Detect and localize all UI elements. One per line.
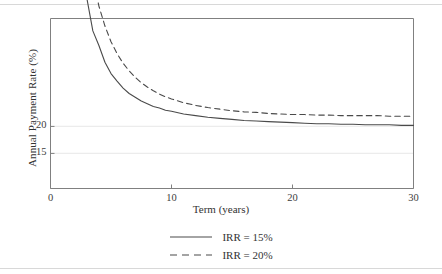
chart-figure: Annual Payment Rate (%) Term (years) 010…	[0, 0, 442, 274]
legend-label: IRR = 20%	[222, 249, 272, 261]
legend-item[interactable]: IRR = 20%	[169, 247, 272, 263]
legend-label: IRR = 15%	[222, 231, 272, 243]
x-tick-label: 30	[399, 192, 429, 203]
chart-legend: IRR = 15% IRR = 20%	[0, 229, 442, 263]
gridline-group	[51, 126, 414, 153]
x-tick-label: 0	[36, 192, 66, 203]
y-tick-label: 15	[21, 146, 47, 157]
x-axis-title: Term (years)	[0, 203, 442, 215]
axis-line-group	[51, 19, 414, 189]
legend-sample-solid-line	[169, 232, 213, 242]
y-tick-label: 20	[21, 119, 47, 130]
x-tick-label: 20	[278, 192, 308, 203]
x-tick-label: 10	[157, 192, 187, 203]
tick-mark-group	[51, 126, 414, 188]
series-line-dashed	[82, 0, 414, 116]
legend-sample-dashed-line	[169, 250, 213, 260]
legend-item[interactable]: IRR = 15%	[169, 229, 272, 245]
